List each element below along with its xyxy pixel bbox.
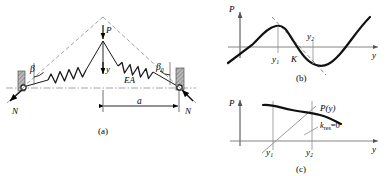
angle-beta0-group: β₀ <box>155 62 170 85</box>
panel-c-kres-leader <box>304 127 318 135</box>
panel-c: P y y₁ y₂ P(y) kres=0 (c) <box>228 98 378 174</box>
reaction-right-label: N <box>184 106 192 116</box>
reaction-left-arrow <box>10 90 22 101</box>
panel-a: N N P y β β₀ <box>6 17 196 136</box>
left-bar-segment-inner <box>86 41 103 70</box>
panel-c-kres-label: kres=0 <box>320 120 340 131</box>
undeformed-right-bar <box>103 17 180 88</box>
panel-c-y1-label: y₁ <box>265 147 273 157</box>
span-dimension-group: a <box>103 90 179 112</box>
panel-b-p-axis-label: P <box>228 4 235 14</box>
angle-beta0-label: β₀ <box>155 62 164 72</box>
panel-b-K-label: K <box>290 54 298 64</box>
panel-b: P y y₁ K y₂ (b) <box>228 4 378 83</box>
reaction-right-arrow <box>182 90 193 101</box>
right-bar-segment-inner <box>103 41 118 66</box>
span-a-label: a <box>137 96 142 106</box>
displacement-y-label: y <box>105 64 110 74</box>
panel-b-y1-label: y₁ <box>271 54 279 64</box>
figure-root: N N P y β β₀ <box>0 0 392 176</box>
angle-beta-label: β <box>29 64 35 74</box>
stiffness-EA-label: EA <box>123 75 135 85</box>
undeformed-configuration <box>22 17 180 88</box>
load-P-group: P <box>103 25 112 39</box>
panel-a-caption: (a) <box>98 126 108 136</box>
deformed-right-member <box>103 41 179 87</box>
reaction-left-label: N <box>11 106 19 116</box>
left-spring-coil <box>48 68 86 84</box>
panel-c-caption: (c) <box>296 164 306 174</box>
panel-c-y2-label: y₂ <box>305 147 313 157</box>
load-P-label: P <box>105 25 112 35</box>
panel-c-p-axis-label: P <box>228 98 235 108</box>
panel-b-y2-label: y₂ <box>306 31 314 41</box>
right-support <box>176 68 184 90</box>
left-support <box>18 71 26 91</box>
figure-canvas: N N P y β β₀ <box>0 0 392 176</box>
panel-b-y-axis-label: y <box>371 50 376 60</box>
panel-c-curve-label: P(y) <box>319 103 336 113</box>
panel-c-y-axis-label: y <box>371 144 376 154</box>
deformed-left-member <box>23 41 103 87</box>
panel-b-caption: (b) <box>296 73 307 83</box>
panel-b-curve <box>228 17 370 66</box>
